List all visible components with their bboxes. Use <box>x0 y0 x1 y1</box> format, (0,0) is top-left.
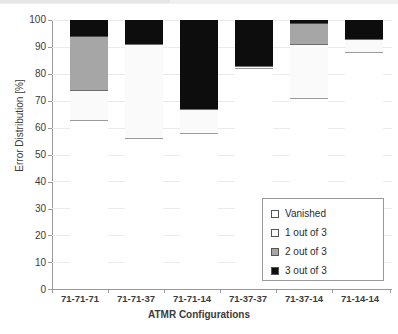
x-axis-line <box>52 289 392 290</box>
y-tick-label-90: 90 <box>14 42 46 52</box>
segment-one-of-three <box>125 44 163 138</box>
bar-71-71-14[interactable] <box>180 20 218 289</box>
y-tick-label-40: 40 <box>14 177 46 187</box>
segment-three-of-three <box>125 20 163 44</box>
segment-one-of-three <box>290 44 328 98</box>
segment-three-of-three <box>70 20 108 36</box>
segment-three-of-three <box>290 20 328 23</box>
square-swatch-black-icon <box>271 267 279 275</box>
legend-item-vanished[interactable]: Vanished <box>271 204 383 223</box>
segment-vanished <box>180 133 218 289</box>
segment-three-of-three <box>235 20 273 66</box>
segment-one-of-three <box>235 66 273 69</box>
legend-label-two-of-three: 2 out of 3 <box>285 246 327 257</box>
segment-one-of-three <box>180 109 218 133</box>
x-tick-label-71-14-14: 71-14-14 <box>320 293 398 304</box>
y-tick-label-20: 20 <box>14 231 46 241</box>
y-tick-label-60: 60 <box>14 123 46 133</box>
segment-one-of-three <box>70 90 108 120</box>
square-swatch-gray-icon <box>271 248 279 256</box>
y-tick-label-80: 80 <box>14 69 46 79</box>
square-swatch-white-icon <box>271 210 279 218</box>
legend-item-two-of-three[interactable]: 2 out of 3 <box>271 242 383 261</box>
segment-two-of-three <box>290 23 328 45</box>
y-tick-label-100: 100 <box>14 15 46 25</box>
segment-two-of-three <box>70 36 108 90</box>
x-axis-title: ATMR Configurations <box>0 309 398 320</box>
y-tick-label-50: 50 <box>14 150 46 160</box>
bar-71-71-71[interactable] <box>70 20 108 289</box>
legend-label-three-of-three: 3 out of 3 <box>285 265 327 276</box>
segment-vanished <box>125 138 163 289</box>
legend-item-three-of-three[interactable]: 3 out of 3 <box>271 261 383 280</box>
square-swatch-offwhite-icon <box>271 229 279 237</box>
legend-label-vanished: Vanished <box>285 208 326 219</box>
bar-71-71-37[interactable] <box>125 20 163 289</box>
y-tick-label-10: 10 <box>14 258 46 268</box>
segment-vanished <box>70 120 108 289</box>
segment-one-of-three <box>345 39 383 52</box>
chart-figure: Error Distribution [%] 100 90 80 70 60 5… <box>0 0 398 334</box>
y-tick-label-70: 70 <box>14 96 46 106</box>
chart-legend: Vanished 1 out of 3 2 out of 3 3 out of … <box>262 198 384 281</box>
y-tick-label-30: 30 <box>14 204 46 214</box>
legend-label-one-of-three: 1 out of 3 <box>285 227 327 238</box>
segment-three-of-three <box>180 20 218 109</box>
segment-three-of-three <box>345 20 383 39</box>
legend-item-one-of-three[interactable]: 1 out of 3 <box>271 223 383 242</box>
